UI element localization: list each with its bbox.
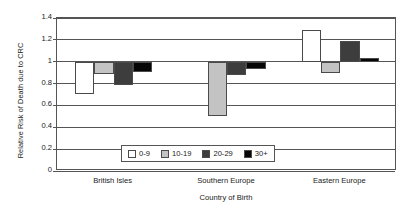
bar-eastern-europe-20-29 [340,41,359,62]
legend-entry-0-9: 0-9 [128,150,150,158]
y-axis-tick-label: 0.2 [26,144,52,152]
y-axis-tick-labels: 00.20.40.60.811.21.4 [26,0,52,220]
y-axis-tick-mark [53,61,57,62]
y-axis-tick-mark [53,171,57,172]
y-axis-tick-label: 1.4 [26,13,52,21]
y-axis-tick-mark [53,105,57,106]
y-axis-tick-label: 0.8 [26,79,52,87]
legend-entry-20-29: 20-29 [202,150,232,158]
bar-eastern-europe-0-9 [302,30,321,62]
legend-swatch-icon [128,150,136,158]
y-axis-tick-label: 0 [26,166,52,174]
bar-british-isles-0-9 [75,62,94,95]
bar-british-isles-10-19 [94,62,113,74]
y-axis-tick-mark [53,39,57,40]
legend-entry-30plus: 30+ [244,150,268,158]
y-axis-tick-mark [53,127,57,128]
y-axis-tick-mark [53,83,57,84]
bar-eastern-europe-10-19 [321,62,340,73]
bar-british-isles-20-29 [114,62,133,85]
x-axis-tick-labels: British IslesSouthern EuropeEastern Euro… [56,176,396,188]
legend-label: 20-29 [213,150,232,158]
legend: 0-910-1920-2930+ [121,145,275,162]
y-axis-tick-mark [53,18,57,19]
gridline [57,171,395,172]
legend-swatch-icon [161,150,169,158]
legend-swatch-icon [244,150,252,158]
gridline [57,18,395,19]
bar-chart: Relative Risk of Death due to CRC 00.20.… [0,0,404,220]
bar-southern-europe-30plus [246,62,265,70]
y-axis-title: Relative Risk of Death due to CRC [16,21,25,181]
y-axis-tick-label: 0.4 [26,122,52,130]
bar-eastern-europe-30plus [360,58,379,61]
legend-label: 10-19 [172,150,191,158]
bar-southern-europe-20-29 [227,62,246,75]
y-axis-tick-mark [53,149,57,150]
y-axis-tick-label: 1.2 [26,35,52,43]
gridline [57,127,395,128]
x-axis-title: Country of Birth [56,193,396,202]
bar-southern-europe-10-19 [208,62,227,117]
y-axis-tick-label: 1 [26,57,52,65]
legend-swatch-icon [202,150,210,158]
x-axis-tick-label: Eastern Europe [313,176,366,185]
x-axis-tick-label: Southern Europe [197,176,254,185]
bar-british-isles-30plus [133,62,152,72]
legend-label: 30+ [255,150,268,158]
legend-entry-10-19: 10-19 [161,150,191,158]
y-axis-tick-label: 0.6 [26,100,52,108]
x-axis-tick-label: British Isles [93,176,132,185]
legend-label: 0-9 [139,150,150,158]
